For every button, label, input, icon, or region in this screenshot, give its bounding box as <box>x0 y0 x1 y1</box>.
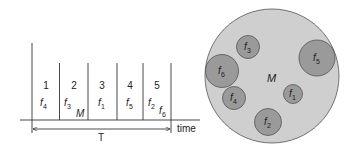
svg-text:4: 4 <box>43 103 47 110</box>
frequency-bubble: f 4 <box>223 87 246 110</box>
period-label: T <box>98 132 104 143</box>
frequency-bubble: f 2 <box>255 109 282 136</box>
svg-text:1: 1 <box>101 103 105 110</box>
slot-number: 5 <box>154 80 160 91</box>
svg-text:2: 2 <box>267 122 271 129</box>
slot-number: 3 <box>99 80 105 91</box>
svg-text:5: 5 <box>129 103 133 110</box>
frequency-bubble: f 5 <box>299 40 335 76</box>
slot-number: 2 <box>71 80 77 91</box>
slot-number: 4 <box>127 80 133 91</box>
marker-label: M <box>76 108 85 119</box>
slot-frequency: f 2 <box>148 97 155 110</box>
svg-text:6: 6 <box>221 71 225 78</box>
frequency-pool: M f 3 f 5 f 6 f 4 f 1 f 2 <box>205 9 339 143</box>
timeline: 1 2 3 4 5 f 4 f 3 f 1 f 5 f 2 f 6 M <box>20 43 200 143</box>
diagram: 1 2 3 4 5 f 4 f 3 f 1 f 5 f 2 f 6 M <box>0 0 356 150</box>
slot-number: 1 <box>43 80 49 91</box>
svg-text:4: 4 <box>233 98 237 105</box>
slot-frequency: f 1 <box>98 97 105 110</box>
svg-text:3: 3 <box>67 103 71 110</box>
pool-label: M <box>267 72 277 84</box>
slot-frequency-extra: f 6 <box>159 105 166 118</box>
slot-frequency: f 5 <box>126 97 133 110</box>
svg-text:3: 3 <box>247 47 251 54</box>
svg-text:5: 5 <box>316 58 320 65</box>
time-axis-label: time <box>177 123 196 134</box>
slot-frequency: f 4 <box>40 97 47 110</box>
svg-text:6: 6 <box>162 111 166 118</box>
frequency-bubble: f 3 <box>237 36 260 59</box>
svg-text:2: 2 <box>151 103 155 110</box>
frequency-bubble: f 1 <box>284 85 303 104</box>
frequency-bubble: f 6 <box>206 55 239 88</box>
slot-frequency: f 3 <box>64 97 71 110</box>
svg-text:1: 1 <box>292 94 296 101</box>
